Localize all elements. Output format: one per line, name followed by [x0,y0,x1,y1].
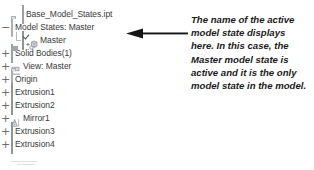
expand-plus-icon[interactable]: + [0,74,11,85]
tree-row-extrusion4[interactable]: + Extrusion4 [0,138,55,151]
model-browser-tree[interactable]: Base_Model_States.ipt − Model States: Ma… [0,0,140,170]
annotation-line: Master model state is [191,53,309,66]
expand-plus-icon[interactable]: + [0,126,11,137]
tree-item-label: Model States: Master [15,22,94,33]
tree-item-label: Origin [15,74,37,85]
tree-row-extrusion1[interactable]: + Extrusion1 [0,86,55,99]
tree-row-mirror1[interactable]: + Mirror1 [0,112,50,125]
tree-item-label: Base_Model_States.ipt [26,9,112,20]
tree-row-extrusion3[interactable]: + Extrusion3 [0,125,55,138]
tree-item-label: Extrusion1 [15,87,55,98]
tree-row-part-file[interactable]: Base_Model_States.ipt [11,8,112,21]
expand-plus-icon[interactable]: + [0,87,11,98]
extrusion-icon [11,136,13,154]
expand-plus-icon[interactable]: + [0,48,11,59]
annotation-line: active and it is the only [191,66,309,79]
expand-plus-icon[interactable]: + [0,100,11,111]
tree-row-master-model-state[interactable]: Master [11,34,66,47]
annotation-line: The name of the active [191,13,309,26]
tree-item-label: Extrusion4 [15,139,55,150]
annotation-line: model state in the model. [191,79,309,92]
tree-item-label: View: Master [23,61,71,72]
tree-item-label: Extrusion2 [15,100,55,111]
tree-item-label: Mirror1 [23,113,50,124]
tree-item-label: Solid Bodies(1) [15,48,72,59]
annotation-line: model state displays [191,26,309,39]
left-arrow-glyph [126,28,188,39]
tree-item-label: Extrusion3 [15,126,55,137]
collapse-minus-icon[interactable]: − [0,22,11,33]
expand-plus-icon[interactable]: + [0,61,11,72]
expand-plus-icon[interactable]: + [0,113,11,124]
tree-row-model-states[interactable]: − Model States: Master [0,21,94,34]
model-state-icon [26,36,38,46]
tree-row-partial-clipped [11,161,37,166]
tree-item-label: Master [40,35,66,46]
tree-row-solid-bodies[interactable]: + Solid Bodies(1) [0,47,72,60]
tree-row-extrusion2[interactable]: + Extrusion2 [0,99,55,112]
expand-plus-icon[interactable]: + [0,139,11,150]
tree-row-origin[interactable]: + Origin [0,73,37,86]
left-arrow-icon [126,25,188,36]
annotation-callout-text: The name of the active model state displ… [191,13,309,92]
annotation-line: here. In this case, the [191,39,309,52]
